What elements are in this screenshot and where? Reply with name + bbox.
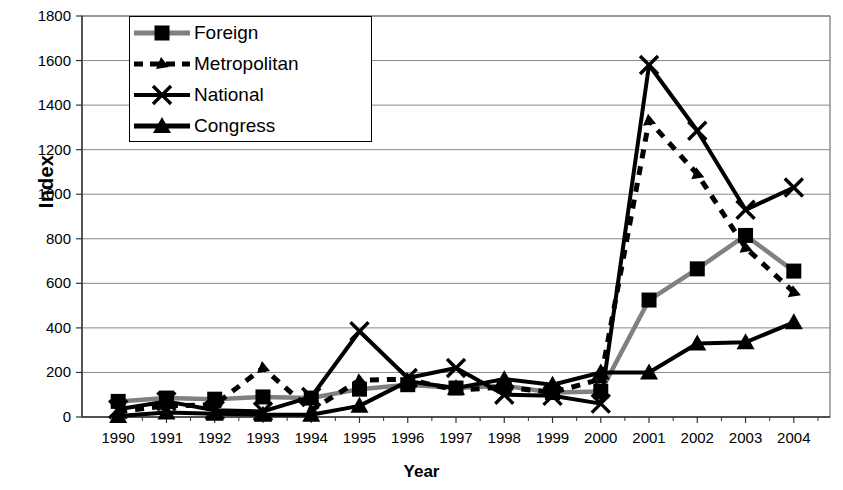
legend-item-congress: Congress	[130, 110, 371, 141]
legend-symbol	[130, 48, 194, 79]
legend-label: Metropolitan	[194, 54, 299, 73]
data-point-square	[255, 389, 270, 404]
legend-symbol	[130, 17, 194, 48]
data-point-square	[642, 293, 657, 308]
legend-symbol	[130, 79, 194, 110]
legend-label: National	[194, 85, 264, 104]
legend-label: Foreign	[194, 23, 258, 42]
legend-swatch-triangle-icon	[130, 110, 194, 141]
data-point-square	[786, 264, 801, 279]
legend-symbol	[130, 110, 194, 141]
legend-item-national: National	[130, 79, 371, 110]
data-point-square	[690, 261, 705, 276]
legend-label: Congress	[194, 116, 275, 135]
legend-item-foreign: Foreign	[130, 17, 371, 48]
data-point-square	[738, 228, 753, 243]
legend-item-metropolitan: Metropolitan	[130, 48, 371, 79]
legend-swatch-cross-icon	[130, 79, 194, 110]
legend-swatch-dashed-icon	[130, 48, 194, 79]
legend-swatch-square-icon	[130, 17, 194, 48]
plot-area	[0, 0, 843, 490]
data-point-square	[155, 26, 170, 41]
chart-root: Index Year 02004006008001000120014001600…	[0, 0, 843, 490]
legend: Foreign Metropolitan National Congress	[129, 16, 372, 142]
